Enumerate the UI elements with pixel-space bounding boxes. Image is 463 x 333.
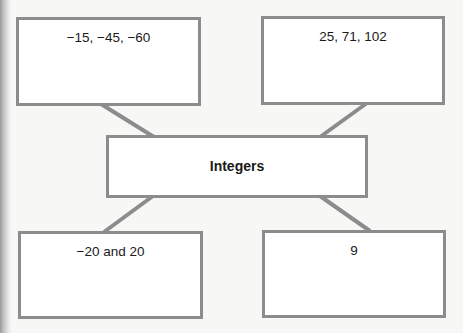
connector-top-left bbox=[101, 104, 154, 137]
node-top-right: 25, 71, 102 bbox=[261, 16, 445, 105]
connector-bottom-right bbox=[320, 196, 370, 231]
node-label: 9 bbox=[265, 233, 443, 258]
node-label: −15, −45, −60 bbox=[19, 20, 198, 45]
connector-bottom-left bbox=[104, 196, 153, 232]
node-bottom-right: 9 bbox=[262, 230, 446, 318]
node-bottom-left: −20 and 20 bbox=[18, 231, 203, 319]
node-label: 25, 71, 102 bbox=[264, 19, 442, 44]
center-label: Integers bbox=[109, 138, 365, 174]
connector-top-right bbox=[320, 103, 367, 137]
node-center: Integers bbox=[106, 135, 368, 198]
node-label: −20 and 20 bbox=[21, 234, 200, 259]
node-top-left: −15, −45, −60 bbox=[16, 17, 201, 106]
